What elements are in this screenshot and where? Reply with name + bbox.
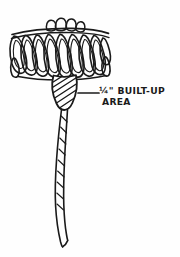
figure-root: ¼" BUILT-UP AREA [0, 0, 180, 257]
fly-tying-illustration [0, 0, 180, 257]
canvas-background [0, 0, 180, 257]
callout-label-line-2: AREA [99, 97, 179, 108]
callout-label: ¼" BUILT-UP AREA [99, 86, 179, 107]
callout-label-line-1: ¼" BUILT-UP [99, 86, 179, 97]
